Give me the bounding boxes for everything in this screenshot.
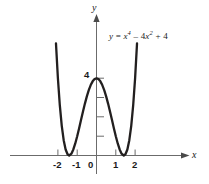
function-graph-figure: -2 -1 0 1 2 4 x y y = x4 – 4x2 + 4 xyxy=(0,0,209,184)
x-tick-label-neg2: -2 xyxy=(53,160,61,170)
y-axis-arrowhead xyxy=(93,14,99,22)
x-axis-arrowhead xyxy=(181,152,190,158)
equation-annotation: y = x4 – 4x2 + 4 xyxy=(109,32,168,41)
equation-operator-1: – xyxy=(131,31,141,41)
x-axis-label: x xyxy=(192,150,196,160)
equation-term3: 4 xyxy=(163,31,168,41)
y-axis-label: y xyxy=(92,3,96,13)
plot-canvas xyxy=(0,0,209,184)
x-tick-label-pos2: 2 xyxy=(132,160,137,170)
equation-equals: = xyxy=(113,31,123,41)
x-tick-label-neg1: -1 xyxy=(72,160,80,170)
x-tick-label-zero: 0 xyxy=(88,160,93,170)
equation-operator-2: + xyxy=(153,31,163,41)
y-tick-label-4: 4 xyxy=(84,70,89,80)
x-tick-label-pos1: 1 xyxy=(113,160,118,170)
